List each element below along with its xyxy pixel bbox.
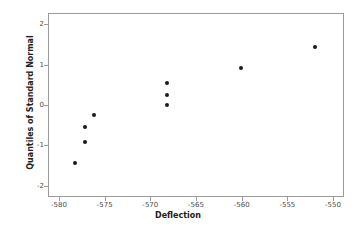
y-tick-label: 2 — [36, 20, 44, 28]
y-tick-mark — [44, 65, 48, 66]
x-tick-label: -560 — [234, 201, 250, 209]
y-tick-mark — [44, 145, 48, 146]
y-tick-label: -1 — [36, 141, 44, 149]
x-tick-label: -570 — [142, 201, 158, 209]
y-tick-label: -2 — [36, 182, 44, 190]
x-axis-title: Deflection — [0, 211, 356, 220]
data-point — [165, 103, 169, 107]
y-tick-mark — [44, 24, 48, 25]
data-point — [165, 93, 169, 97]
plot-area — [48, 13, 344, 197]
x-tick-label: -580 — [51, 201, 67, 209]
y-tick-label: 0 — [36, 101, 44, 109]
x-tick-label: -550 — [325, 201, 341, 209]
x-tick-label: -555 — [279, 201, 295, 209]
y-tick-mark — [44, 105, 48, 106]
x-tick-label: -565 — [188, 201, 204, 209]
x-tick-label: -575 — [97, 201, 113, 209]
data-point — [165, 81, 169, 85]
y-axis-title: Quantiles of Standard Normal — [26, 23, 35, 183]
y-tick-mark — [44, 186, 48, 187]
y-tick-label: 1 — [36, 61, 44, 69]
qq-plot-figure: -580-575-570-565-560-555-550 210-1-2 Def… — [0, 0, 356, 231]
